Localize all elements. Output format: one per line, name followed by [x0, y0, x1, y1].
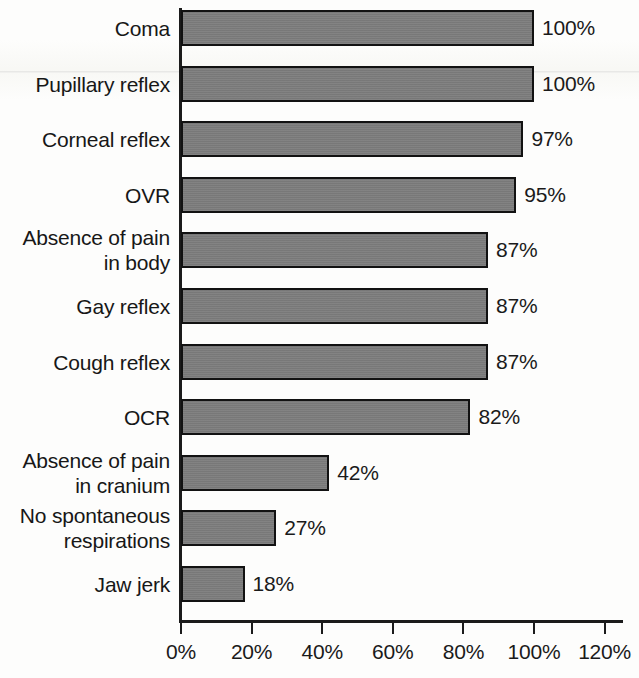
x-axis-tick: [251, 623, 253, 634]
x-axis-tick: [321, 623, 323, 634]
category-label: Pupillary reflex: [0, 71, 170, 96]
category-label: Absence of pain in cranium: [0, 448, 170, 498]
x-axis-tick-label: 40%: [301, 640, 342, 664]
category-label: Gay reflex: [0, 294, 170, 319]
bar-row: Absence of pain in body87%: [0, 232, 639, 268]
x-axis-tick: [392, 623, 394, 634]
x-axis-tick-label: 80%: [443, 640, 484, 664]
x-axis-tick-label: 20%: [231, 640, 272, 664]
bar-value-label: 87%: [496, 238, 537, 262]
x-axis-tick: [604, 623, 606, 634]
bar: [181, 177, 516, 213]
bar: [181, 10, 534, 46]
bar: [181, 121, 523, 157]
bar-value-label: 42%: [337, 461, 378, 485]
bar-value-label: 100%: [542, 16, 595, 40]
plot-area: 0%20%40%60%80%100%120%Coma100%Pupillary …: [0, 0, 639, 678]
bar-value-label: 95%: [524, 183, 565, 207]
bar-row: OCR82%: [0, 399, 639, 435]
bar-row: OVR95%: [0, 177, 639, 213]
bar: [181, 232, 488, 268]
x-axis-tick-label: 0%: [166, 640, 196, 664]
bar-value-label: 27%: [284, 516, 325, 540]
x-axis-tick-label: 100%: [508, 640, 561, 664]
bar: [181, 344, 488, 380]
bar-row: Absence of pain in cranium42%: [0, 455, 639, 491]
category-label: Absence of pain in body: [0, 225, 170, 275]
category-label: OVR: [0, 182, 170, 207]
bar-row: Cough reflex87%: [0, 344, 639, 380]
bar-row: Jaw jerk18%: [0, 566, 639, 602]
bar-value-label: 18%: [253, 572, 294, 596]
bar-row: Pupillary reflex100%: [0, 66, 639, 102]
bar-row: Corneal reflex97%: [0, 121, 639, 157]
bar-value-label: 87%: [496, 350, 537, 374]
category-label: Jaw jerk: [0, 572, 170, 597]
category-label: Coma: [0, 16, 170, 41]
x-axis-line: [179, 620, 623, 623]
bar-row: No spontaneous respirations27%: [0, 510, 639, 546]
bar-row: Coma100%: [0, 10, 639, 46]
bar: [181, 399, 470, 435]
bar: [181, 566, 245, 602]
bar: [181, 455, 329, 491]
x-axis-tick-label: 120%: [578, 640, 631, 664]
category-label: Corneal reflex: [0, 127, 170, 152]
bar: [181, 510, 276, 546]
x-axis-tick: [180, 623, 182, 634]
x-axis-tick: [533, 623, 535, 634]
bar-value-label: 100%: [542, 72, 595, 96]
x-axis-tick: [462, 623, 464, 634]
bar-value-label: 87%: [496, 294, 537, 318]
bar-chart: 0%20%40%60%80%100%120%Coma100%Pupillary …: [0, 0, 639, 678]
bar-value-label: 97%: [531, 127, 572, 151]
category-label: Cough reflex: [0, 349, 170, 374]
bar-value-label: 82%: [478, 405, 519, 429]
category-label: OCR: [0, 405, 170, 430]
x-axis-tick-label: 60%: [372, 640, 413, 664]
bar: [181, 66, 534, 102]
bar: [181, 288, 488, 324]
category-label: No spontaneous respirations: [0, 503, 170, 553]
bar-row: Gay reflex87%: [0, 288, 639, 324]
